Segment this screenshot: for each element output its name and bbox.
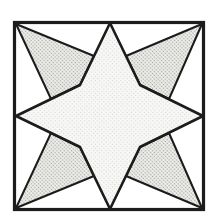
star-in-square-figure: [0, 0, 219, 224]
figure-canvas: [0, 0, 219, 224]
drawing-group: [15, 23, 204, 210]
